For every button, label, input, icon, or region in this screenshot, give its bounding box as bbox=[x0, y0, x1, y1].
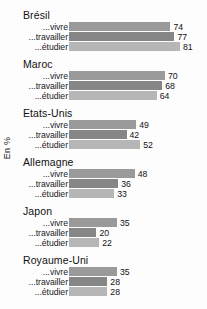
bar-row-label: ...étudier bbox=[35, 42, 68, 52]
bar-row-label: ...étudier bbox=[35, 287, 68, 297]
bar-row: ...étudier22 bbox=[0, 238, 207, 248]
bar-value-label: 28 bbox=[110, 287, 120, 297]
bar bbox=[69, 130, 127, 139]
bar-value-label: 77 bbox=[177, 32, 187, 42]
bar bbox=[69, 91, 157, 100]
bar-value-label: 36 bbox=[121, 179, 131, 189]
bar-row-label: ...travailler bbox=[29, 81, 68, 91]
bar-row-label: ...étudier bbox=[35, 238, 68, 248]
bar-row-label: ...étudier bbox=[35, 91, 68, 101]
group-title: Allemagne bbox=[23, 156, 74, 168]
bar-row-label: ...vivre bbox=[43, 169, 68, 179]
bar-row: ...étudier52 bbox=[0, 140, 207, 150]
bar bbox=[69, 238, 99, 247]
bar bbox=[69, 71, 165, 80]
bar bbox=[69, 287, 107, 296]
bar-row-label: ...travailler bbox=[29, 277, 68, 287]
group-title: Maroc bbox=[23, 58, 53, 70]
bar-value-label: 35 bbox=[120, 218, 130, 228]
bar-row-label: ...vivre bbox=[43, 120, 68, 130]
bar-row-label: ...vivre bbox=[43, 218, 68, 228]
bar-chart: En % Brésil...vivre74...travailler77...é… bbox=[0, 0, 207, 309]
group-title: Brésil bbox=[23, 9, 50, 21]
bar-row-label: ...vivre bbox=[43, 22, 68, 32]
bar-row: ...travailler36 bbox=[0, 179, 207, 189]
bar-row-label: ...étudier bbox=[35, 140, 68, 150]
bar bbox=[69, 218, 117, 227]
bar-row: ...vivre35 bbox=[0, 267, 207, 277]
bar-row-label: ...travailler bbox=[29, 32, 68, 42]
bar-value-label: 68 bbox=[165, 81, 175, 91]
bar-value-label: 74 bbox=[173, 22, 183, 32]
bar-row: ...travailler20 bbox=[0, 228, 207, 238]
bar-value-label: 48 bbox=[138, 169, 148, 179]
bar-row: ...travailler68 bbox=[0, 81, 207, 91]
bar-row: ...étudier28 bbox=[0, 287, 207, 297]
bar bbox=[69, 169, 135, 178]
bar-row: ...vivre35 bbox=[0, 218, 207, 228]
bar-row: ...travailler28 bbox=[0, 277, 207, 287]
bar bbox=[69, 228, 96, 237]
bar-row-label: ...étudier bbox=[35, 189, 68, 199]
bar-row-label: ...vivre bbox=[43, 71, 68, 81]
group-title: Etats-Unis bbox=[23, 107, 72, 119]
bar bbox=[69, 42, 180, 51]
bar-value-label: 52 bbox=[143, 140, 153, 150]
bar-row: ...étudier64 bbox=[0, 91, 207, 101]
bar bbox=[69, 32, 174, 41]
bar-value-label: 33 bbox=[117, 189, 127, 199]
bar-row-label: ...travailler bbox=[29, 130, 68, 140]
bar bbox=[69, 22, 170, 31]
bar-value-label: 20 bbox=[99, 228, 109, 238]
bar bbox=[69, 140, 140, 149]
bar-row: ...vivre48 bbox=[0, 169, 207, 179]
bar-row: ...vivre70 bbox=[0, 71, 207, 81]
bar-row-label: ...travailler bbox=[29, 179, 68, 189]
bar-row: ...travailler77 bbox=[0, 32, 207, 42]
bar-value-label: 64 bbox=[160, 91, 170, 101]
group-title: Royaume-Uni bbox=[23, 254, 88, 266]
bar bbox=[69, 179, 118, 188]
bar-row: ...travailler42 bbox=[0, 130, 207, 140]
bar-value-label: 70 bbox=[168, 71, 178, 81]
bar-value-label: 81 bbox=[183, 42, 193, 52]
bar-value-label: 22 bbox=[102, 238, 112, 248]
bar-row: ...vivre49 bbox=[0, 120, 207, 130]
bar bbox=[69, 189, 114, 198]
bar-row: ...vivre74 bbox=[0, 22, 207, 32]
bar-row: ...étudier33 bbox=[0, 189, 207, 199]
bar-value-label: 35 bbox=[120, 267, 130, 277]
bar-value-label: 42 bbox=[130, 130, 140, 140]
group-title: Japon bbox=[23, 205, 52, 217]
bar-row-label: ...vivre bbox=[43, 267, 68, 277]
bar bbox=[69, 120, 136, 129]
bar-value-label: 49 bbox=[139, 120, 149, 130]
bar bbox=[69, 277, 107, 286]
bar-row-label: ...travailler bbox=[29, 228, 68, 238]
bar bbox=[69, 81, 162, 90]
bar bbox=[69, 267, 117, 276]
bar-value-label: 28 bbox=[110, 277, 120, 287]
bar-row: ...étudier81 bbox=[0, 42, 207, 52]
